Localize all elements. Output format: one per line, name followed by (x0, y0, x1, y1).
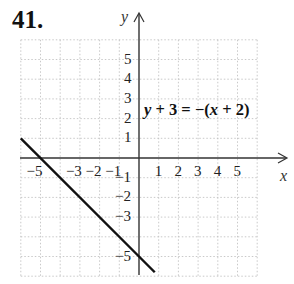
x-tick-label: 2 (174, 164, 182, 179)
y-tick-label: 4 (124, 71, 132, 86)
x-tick-label: 3 (194, 164, 202, 179)
x-tick-label: 5 (234, 164, 242, 179)
x-tick-label: −3 (66, 164, 82, 179)
y-tick-label: 1 (124, 130, 132, 145)
coordinate-graph (0, 0, 294, 284)
x-tick-label: −5 (27, 164, 43, 179)
x-tick-label: −2 (86, 164, 102, 179)
y-tick-label: 3 (124, 91, 132, 106)
x-tick-label: 4 (214, 164, 222, 179)
y-tick-label: −2 (115, 189, 131, 204)
equation-label: y + 3 = −(x + 2) (144, 100, 249, 120)
y-axis-label: y (121, 8, 128, 26)
y-tick-label: −1 (115, 170, 131, 185)
y-tick-label: −3 (115, 209, 131, 224)
y-tick-label: −5 (115, 249, 131, 264)
y-tick-label: 5 (124, 52, 132, 67)
x-tick-label: 1 (155, 164, 163, 179)
y-tick-label: 2 (124, 111, 132, 126)
x-axis-label: x (280, 167, 287, 185)
